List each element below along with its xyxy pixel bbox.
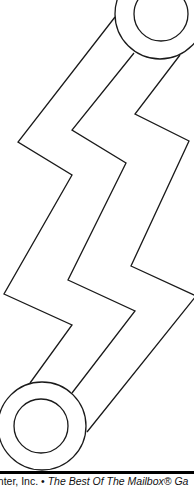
copyright-footer: enter, Inc. • The Best Of The Mailbox® G… (0, 475, 188, 487)
maze-left-wall (4, 17, 115, 383)
footer-title: The Best Of The Mailbox® Ga (48, 475, 189, 487)
end-circle-outer (0, 382, 86, 470)
footer-divider (0, 471, 194, 474)
maze-right-wall (87, 55, 194, 432)
footer-publisher: enter, Inc. (0, 475, 38, 487)
maze-middle-wall (68, 53, 135, 393)
footer-separator: • (38, 475, 48, 487)
zigzag-maze-path (0, 0, 194, 472)
start-circle-outer (115, 0, 194, 59)
